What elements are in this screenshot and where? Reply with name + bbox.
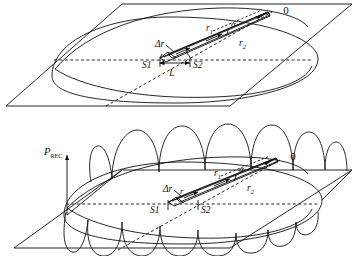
label-station-1-lower: S1	[150, 205, 160, 215]
figure-canvas: 0 r1 r2 α Δr S1 S2 L	[0, 0, 354, 256]
label-r2-upper: r2	[239, 38, 247, 50]
lobe-top	[90, 146, 112, 182]
upper-angle-dashed-ref	[213, 10, 262, 31]
lobe-top	[112, 130, 159, 178]
lower-lobes-bottom	[64, 212, 318, 256]
lower-ellipse	[64, 162, 322, 244]
label-radius-lower: r	[180, 186, 184, 196]
label-power-axis-subscript: REC	[50, 152, 62, 159]
label-r2-subscript-lower: 2	[251, 188, 255, 195]
label-power-axis-lower: PREC	[43, 146, 62, 159]
label-source-upper: 0	[283, 4, 289, 16]
label-station-2-upper: S2	[193, 60, 203, 70]
lobe-top	[293, 132, 325, 170]
lobe-top	[159, 126, 205, 172]
upper-beam-ray-center	[164, 13, 268, 57]
lower-rim-edge-right	[322, 170, 352, 200]
label-alpha-upper: α	[231, 19, 236, 29]
lobe-bottom	[122, 222, 160, 256]
lower-beam-ray-center	[172, 159, 276, 201]
lower-rim-edge-left	[67, 170, 122, 215]
lobe-bottom	[160, 226, 198, 256]
label-delta-r-upper: Δr	[154, 39, 165, 49]
label-delta-r-lower: Δr	[162, 184, 173, 194]
upper-delta-r-leader	[166, 45, 174, 52]
label-source-lower: 0	[290, 150, 296, 162]
lobe-top	[325, 142, 347, 171]
diagram-svg: 0 r1 r2 α Δr S1 S2 L	[0, 0, 354, 256]
label-station-2-lower: S2	[201, 205, 211, 215]
label-r2-subscript-upper: 2	[243, 43, 247, 50]
upper-beam-envelope-arc-2	[55, 66, 312, 97]
lower-angle-dashed-ref	[221, 156, 270, 176]
label-r1-upper: r1	[206, 23, 213, 35]
label-r2-lower: r2	[247, 183, 255, 195]
label-station-1-upper: S1	[142, 60, 152, 70]
label-alpha-lower: α	[239, 164, 244, 174]
lower-axis-dashed-oblique	[118, 160, 280, 250]
label-baseline-L-upper: L	[168, 68, 174, 78]
lower-panel-labels: PREC 0 r1 r2 α Δr r S1 S2	[43, 146, 296, 215]
label-r1-subscript-upper: 1	[210, 28, 213, 35]
upper-panel	[6, 4, 352, 106]
lobe-bottom	[296, 212, 318, 235]
label-r1-subscript-lower: 1	[218, 173, 221, 180]
